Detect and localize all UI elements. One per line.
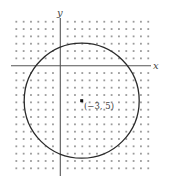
grid-dot bbox=[125, 160, 127, 162]
grid-dot bbox=[67, 94, 69, 96]
grid-dot bbox=[133, 28, 135, 30]
grid-dot bbox=[103, 94, 105, 96]
grid-dot bbox=[52, 153, 54, 155]
grid-dot bbox=[37, 57, 39, 59]
grid-dot bbox=[96, 43, 98, 45]
grid-dot bbox=[96, 21, 98, 23]
grid-dot bbox=[45, 109, 47, 111]
grid-dot bbox=[52, 35, 54, 37]
grid-dot bbox=[111, 167, 113, 169]
grid-dot bbox=[45, 43, 47, 45]
grid-dot bbox=[15, 72, 17, 74]
grid-dot bbox=[133, 138, 135, 140]
grid-dot bbox=[111, 72, 113, 74]
grid-dot bbox=[52, 72, 54, 74]
grid-dot bbox=[81, 116, 83, 118]
grid-dot bbox=[111, 138, 113, 140]
grid-dot bbox=[45, 57, 47, 59]
grid-dot bbox=[23, 123, 25, 125]
grid-dot bbox=[74, 72, 76, 74]
grid-dot bbox=[96, 131, 98, 133]
grid-dot bbox=[23, 167, 25, 169]
grid-dot bbox=[23, 28, 25, 30]
grid-dot bbox=[118, 101, 120, 103]
grid-dot bbox=[67, 87, 69, 89]
grid-dot bbox=[45, 28, 47, 30]
grid-dot bbox=[23, 138, 25, 140]
grid-dot bbox=[140, 101, 142, 103]
grid-dot bbox=[37, 43, 39, 45]
grid-dot bbox=[103, 160, 105, 162]
grid-dot bbox=[140, 153, 142, 155]
grid-dot bbox=[96, 35, 98, 37]
grid-dot bbox=[118, 131, 120, 133]
grid-dot bbox=[103, 87, 105, 89]
grid-dot bbox=[15, 153, 17, 155]
grid-dot bbox=[81, 160, 83, 162]
grid-dot bbox=[111, 160, 113, 162]
grid-dot bbox=[81, 50, 83, 52]
grid-dot bbox=[30, 28, 32, 30]
grid-dot bbox=[81, 145, 83, 147]
grid-dot bbox=[15, 123, 17, 125]
grid-dot bbox=[81, 21, 83, 23]
grid-dot bbox=[140, 43, 142, 45]
grid-dot bbox=[96, 87, 98, 89]
grid-dot bbox=[67, 79, 69, 81]
grid-dot bbox=[89, 145, 91, 147]
grid-dot bbox=[118, 50, 120, 52]
grid-dot bbox=[74, 160, 76, 162]
grid-dot bbox=[147, 57, 149, 59]
grid-dot bbox=[52, 116, 54, 118]
grid-dot bbox=[111, 87, 113, 89]
grid-dot bbox=[118, 138, 120, 140]
grid-dot bbox=[118, 72, 120, 74]
grid-dot bbox=[103, 116, 105, 118]
grid-dot bbox=[67, 28, 69, 30]
grid-dot bbox=[67, 35, 69, 37]
grid-dot bbox=[37, 21, 39, 23]
grid-dot bbox=[30, 116, 32, 118]
grid-dot bbox=[125, 79, 127, 81]
grid-dot bbox=[140, 123, 142, 125]
grid-dot bbox=[81, 94, 83, 96]
grid-dot bbox=[67, 160, 69, 162]
grid-dot bbox=[52, 57, 54, 59]
grid-dot bbox=[125, 35, 127, 37]
grid-dot bbox=[89, 123, 91, 125]
grid-dot bbox=[147, 21, 149, 23]
grid-dot bbox=[45, 160, 47, 162]
grid-dot bbox=[147, 50, 149, 52]
grid-dot bbox=[81, 109, 83, 111]
grid-dot bbox=[37, 131, 39, 133]
grid-dot bbox=[147, 123, 149, 125]
grid-dot bbox=[67, 50, 69, 52]
grid-dot bbox=[125, 94, 127, 96]
grid-dot bbox=[45, 138, 47, 140]
grid-dot bbox=[30, 138, 32, 140]
grid-dot bbox=[103, 35, 105, 37]
grid-dot bbox=[89, 87, 91, 89]
grid-dot bbox=[140, 87, 142, 89]
grid-dot bbox=[103, 72, 105, 74]
grid-dot bbox=[74, 57, 76, 59]
grid-dot bbox=[15, 116, 17, 118]
grid-dot bbox=[74, 131, 76, 133]
grid-dot bbox=[103, 50, 105, 52]
grid-dot bbox=[125, 50, 127, 52]
grid-dot bbox=[74, 123, 76, 125]
grid-dot bbox=[125, 116, 127, 118]
grid-dot bbox=[45, 21, 47, 23]
grid-dot bbox=[89, 35, 91, 37]
grid-dot bbox=[74, 109, 76, 111]
grid-dot bbox=[147, 160, 149, 162]
grid-dot bbox=[74, 145, 76, 147]
grid-dot bbox=[111, 123, 113, 125]
grid-dot bbox=[111, 131, 113, 133]
grid-dot bbox=[45, 101, 47, 103]
grid-dot bbox=[37, 160, 39, 162]
grid-dot bbox=[89, 72, 91, 74]
grid-dot bbox=[111, 94, 113, 96]
grid-dot bbox=[45, 131, 47, 133]
grid-dot bbox=[81, 123, 83, 125]
